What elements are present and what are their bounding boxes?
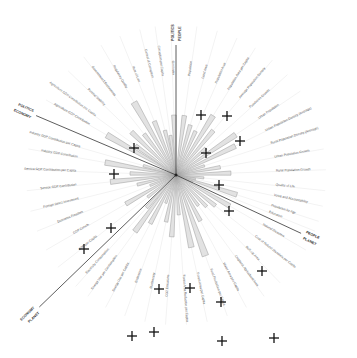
plus-marker-icon	[222, 111, 232, 121]
plus-marker-icon	[154, 284, 164, 294]
center-point	[175, 174, 178, 177]
axis-label: Foreign Direct Investment	[43, 196, 79, 209]
axis-label: Industry GDP Contribution	[41, 148, 79, 158]
axis-label: Voice and Accountability	[274, 193, 309, 204]
axis-label: Land Area	[201, 64, 209, 79]
axis-label: Forest Area per Capita	[196, 272, 207, 304]
section-boundary-planet-economy	[39, 175, 176, 307]
radial-diagram: POLITICSPEOPLEPEOPLEPLANETPLANETECONOMYE…	[0, 0, 357, 358]
axis-label: CO2 Emissions	[164, 274, 170, 297]
axis-label: Rural Population Growth	[276, 167, 311, 172]
axis-label: Urban Population	[257, 103, 280, 120]
axis-label: Regulatory Quality	[112, 64, 129, 89]
axis-label: Control of Corruption	[144, 49, 155, 79]
axis-label: Energy Use per Capita	[111, 262, 130, 293]
axis-label: Education	[268, 210, 283, 219]
plus-marker-icon	[217, 336, 227, 346]
star-plot: POLITICSPEOPLEPEOPLEPLANETPLANETECONOMYE…	[0, 0, 357, 358]
axis-label: Gini Index	[171, 61, 176, 76]
axis-label: Forest Area Reduction per Capita	[182, 275, 189, 323]
section-label: POLITICS	[171, 24, 175, 41]
plus-marker-icon	[127, 331, 137, 341]
axis-label: Quality of Life	[275, 182, 295, 188]
plus-marker-icon	[149, 327, 159, 337]
plus-marker-icon	[106, 223, 116, 233]
axis-label: Rule of Law	[131, 66, 141, 84]
axis-label: Built-Up Area	[245, 245, 261, 261]
axis-label: Economic Freedom	[57, 210, 84, 224]
axis-label: Cropland, Agricultural Area	[234, 254, 260, 287]
section-label: PEOPLE	[178, 26, 182, 41]
axis-label: Cost of Natural Disasters per Capita	[254, 234, 297, 269]
axis-label: Rural Population Density (Average)	[270, 126, 319, 145]
axis-label: Political Stability	[87, 87, 107, 106]
axis-label: Service GDP Contribution	[40, 182, 77, 190]
axis-label: Water Area per Capita	[222, 262, 240, 292]
axis-label: Food Production per Capita	[209, 268, 226, 306]
axis-label: Endemism	[134, 268, 143, 284]
plus-marker-icon	[269, 333, 279, 343]
axis-label: Service GDP Contribution per Capita	[24, 167, 76, 173]
axis-label: Corruption per Capita	[157, 45, 165, 76]
axis-label: Biodiversity	[149, 272, 156, 289]
axis-label: Industry GDP Contribution per Capita	[29, 130, 81, 148]
axis-label: Population Growth	[248, 88, 270, 109]
axis-label: Urban Population Growth	[274, 148, 310, 158]
axis-label: GDP Growth	[72, 222, 90, 235]
plus-marker-icon	[109, 169, 119, 179]
value-shapes	[105, 101, 238, 257]
axis-label: Population	[187, 60, 193, 76]
axis-label: Population Area	[214, 62, 227, 84]
